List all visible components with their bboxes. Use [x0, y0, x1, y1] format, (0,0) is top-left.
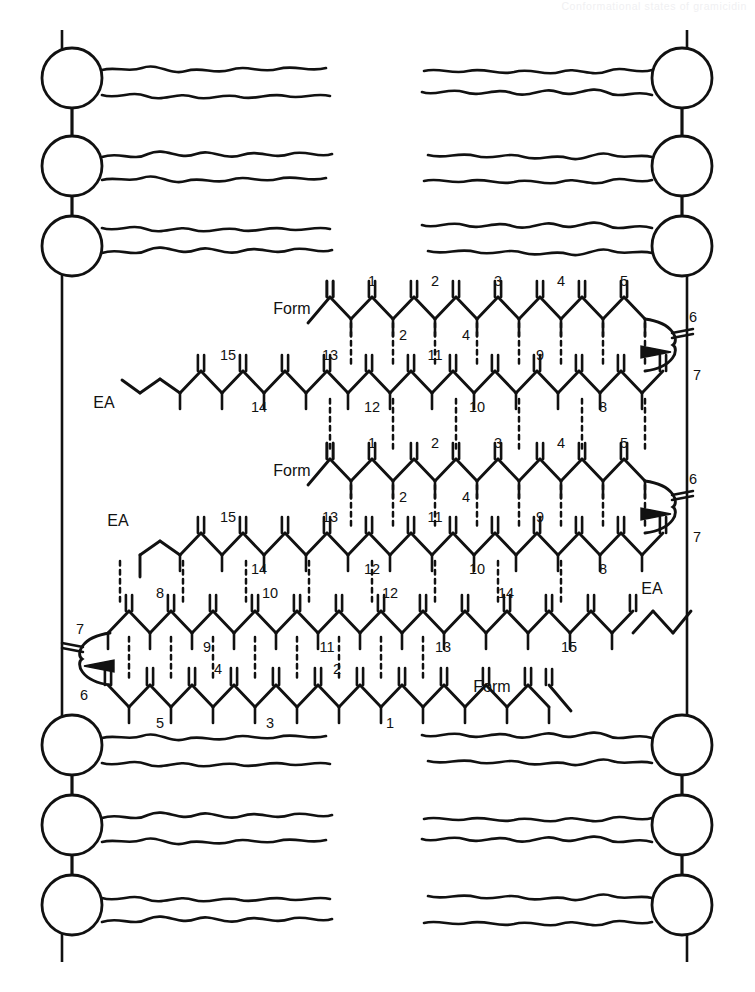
residue-number: 15 [220, 509, 236, 525]
backbone-bond [621, 533, 642, 555]
backbone-bond [528, 685, 549, 707]
leaflet-bottom-right [422, 715, 712, 935]
ea-bond [633, 611, 653, 633]
dimer-unit-middle [140, 399, 693, 577]
formyl-bond [308, 297, 330, 323]
residue-number: 3 [494, 273, 502, 289]
backbone-bond [642, 371, 663, 393]
backbone-bond [348, 533, 369, 555]
backbone-bond [213, 685, 234, 707]
backbone-bond [456, 459, 477, 481]
backbone-bond [327, 533, 348, 555]
backbone-bond [390, 371, 411, 393]
formyl-bond [549, 685, 571, 711]
backbone-bond [474, 371, 495, 393]
backbone-bond [411, 533, 432, 555]
backbone-bond [579, 371, 600, 393]
residue-number: 10 [469, 561, 485, 577]
residue-number: 7 [693, 367, 701, 383]
backbone-bond [582, 459, 603, 481]
backbone-bond [222, 371, 243, 393]
residue-number: 1 [386, 715, 394, 731]
figure-canvas: Conformational states of gramicidin [0, 0, 755, 992]
backbone-bond [390, 533, 411, 555]
backbone-bond [348, 371, 369, 393]
backbone-bond [360, 685, 381, 707]
lipid-tails-top-right [422, 69, 652, 255]
lipid-tails-bottom-left [102, 734, 332, 922]
backbone-bond [600, 371, 621, 393]
backbone-bond [519, 459, 540, 481]
residue-number: 15 [220, 347, 236, 363]
backbone-bond [561, 459, 582, 481]
residue-number: 15 [561, 639, 577, 655]
backbone-bond [243, 533, 264, 555]
backbone-bond [549, 611, 570, 633]
backbone-bond [612, 611, 633, 633]
backbone-bond [507, 611, 528, 633]
backbone-bond [330, 297, 351, 319]
backbone-bond [372, 297, 393, 319]
backbone-bond [465, 611, 486, 633]
residue-number: 12 [364, 399, 380, 415]
backbone-bond [393, 459, 414, 481]
formyl-bond [308, 459, 330, 485]
backbone-bond [318, 611, 339, 633]
backbone-bond [423, 611, 444, 633]
ea-bond [653, 611, 673, 633]
backbone-bond [537, 533, 558, 555]
turn-carbonyl [672, 329, 693, 333]
formyl-label: Form [273, 462, 310, 479]
residue-number: 10 [262, 585, 278, 601]
backbone-bond [180, 533, 201, 555]
backbone-bond [582, 297, 603, 319]
backbone-bond [297, 611, 318, 633]
backbone-bond [600, 533, 621, 555]
backbone-bond [297, 685, 318, 707]
residue-number: 1 [368, 435, 376, 451]
backbone-bond [222, 533, 243, 555]
ethanolamine-label: EA [641, 580, 663, 597]
backbone-bond [330, 459, 351, 481]
backbone-bond [540, 459, 561, 481]
residue-number: 8 [156, 585, 164, 601]
residue-number: 12 [364, 561, 380, 577]
residue-number: 4 [462, 489, 470, 505]
backbone-bond [435, 297, 456, 319]
backbone-bond [339, 611, 360, 633]
backbone-bond [351, 459, 372, 481]
residue-number: 8 [599, 561, 607, 577]
backbone-bond [150, 611, 171, 633]
backbone-bond [306, 371, 327, 393]
backbone-bond [393, 297, 414, 319]
backbone-bond [444, 685, 465, 707]
backbone-bond [276, 611, 297, 633]
residue-number: 10 [469, 399, 485, 415]
residue-number: 11 [319, 639, 334, 655]
backbone-bond [516, 371, 537, 393]
backbone-bond [402, 685, 423, 707]
peptide-network [62, 281, 693, 723]
backbone-bond [453, 371, 474, 393]
ethanolamine-label: EA [93, 394, 115, 411]
leaflet-bottom-left [42, 715, 332, 935]
backbone-bond [108, 611, 129, 633]
backbone-bond [285, 533, 306, 555]
backbone-bond [171, 611, 192, 633]
residue-number: 6 [689, 471, 697, 487]
residue-number: 4 [462, 327, 470, 343]
backbone-bond [498, 459, 519, 481]
residue-number: 5 [620, 273, 628, 289]
residue-number: 2 [399, 327, 407, 343]
residue-number: 3 [494, 435, 502, 451]
backbone-bond [477, 459, 498, 481]
gramicidin-bilayer-svg: 123452467Form15141312111098EA123452467Fo… [0, 0, 755, 992]
ea-bond [140, 541, 160, 555]
residue-number: 6 [80, 687, 88, 703]
peptide-label-layer: 123452467Form15141312111098EA123452467Fo… [76, 273, 701, 731]
backbone-bond [318, 685, 339, 707]
backbone-bond [519, 297, 540, 319]
backbone-bond [180, 371, 201, 393]
backbone-bond [192, 611, 213, 633]
backbone-bond [561, 297, 582, 319]
